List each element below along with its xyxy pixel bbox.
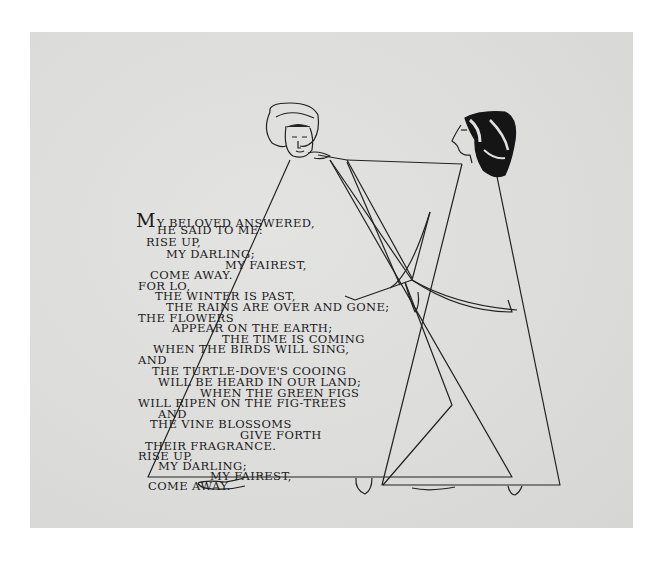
poem-line: when the birds will sing, [153, 343, 349, 355]
poem-text: My beloved answered, he said to me: Rise… [0, 0, 664, 561]
poem-line: my fairest, [225, 259, 307, 271]
poem-line: come away. [148, 480, 231, 492]
